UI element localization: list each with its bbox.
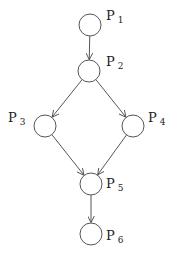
node-p2: P2 xyxy=(78,54,123,82)
nodes-group: P1P2P3P4P5P6 xyxy=(8,8,166,245)
node-circle xyxy=(78,60,100,82)
node-label: P2 xyxy=(106,54,123,71)
node-label: P5 xyxy=(106,176,124,193)
node-p1: P1 xyxy=(79,8,123,36)
node-circle xyxy=(34,115,56,137)
dag-diagram: P1P2P3P4P5P6 xyxy=(0,0,172,258)
node-label: P4 xyxy=(148,110,166,127)
edge-p3-to-p5 xyxy=(52,135,84,175)
edge-p2-to-p4 xyxy=(96,80,126,117)
node-p6: P6 xyxy=(80,223,124,245)
node-circle xyxy=(79,14,101,36)
edge-p4-to-p5 xyxy=(98,135,127,174)
node-p4: P4 xyxy=(122,110,166,137)
node-label: P1 xyxy=(106,8,123,25)
node-p3: P3 xyxy=(8,110,56,137)
node-p5: P5 xyxy=(80,173,124,195)
node-label: P3 xyxy=(8,110,26,127)
edge-p2-to-p3 xyxy=(52,80,82,117)
node-circle xyxy=(80,173,102,195)
node-circle xyxy=(80,223,102,245)
node-circle xyxy=(122,115,144,137)
edge-p1-to-p2 xyxy=(89,36,90,59)
node-label: P6 xyxy=(106,228,124,245)
diagram-svg: P1P2P3P4P5P6 xyxy=(0,0,172,258)
